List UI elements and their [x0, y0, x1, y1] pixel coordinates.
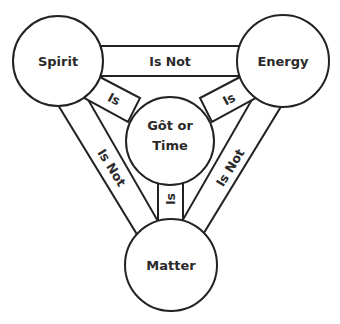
node-energy-label: Energy	[257, 54, 309, 69]
node-spirit-label: Spirit	[38, 54, 78, 69]
triangle-relationship-diagram: Spirit Energy Matter Gôt or Time Is Not …	[0, 0, 340, 324]
node-matter-label: Matter	[146, 258, 196, 273]
node-center-label-line1: Gôt or	[147, 118, 193, 133]
edge-matter-center-label: Is	[163, 193, 178, 205]
node-center-label-line2: Time	[152, 138, 188, 153]
edge-spirit-energy-label: Is Not	[149, 54, 190, 69]
